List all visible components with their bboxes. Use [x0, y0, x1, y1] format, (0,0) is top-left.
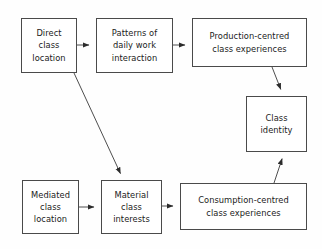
edge-direct-to-material [74, 73, 120, 174]
node-label: Consumption-centred class experiences [198, 194, 289, 218]
diagram-canvas: Direct class location Patterns of daily … [0, 0, 322, 249]
edge-production-to-class-identity [272, 67, 281, 89]
edge-consumption-to-class-identity [274, 159, 282, 183]
node-label: Mediated class location [31, 189, 70, 225]
node-label: Material class interests [113, 189, 150, 225]
node-label: Direct class location [32, 27, 65, 63]
node-label: Patterns of daily work interaction [112, 27, 157, 63]
node-consumption-centred-class-experiences[interactable]: Consumption-centred class experiences [180, 183, 307, 230]
node-direct-class-location[interactable]: Direct class location [21, 18, 77, 73]
node-production-centred-class-experiences[interactable]: Production-centred class experiences [192, 18, 307, 67]
node-label: Production-centred class experiences [210, 30, 290, 54]
node-patterns-of-daily-work-interaction[interactable]: Patterns of daily work interaction [96, 18, 173, 73]
node-class-identity[interactable]: Class identity [246, 96, 307, 152]
node-mediated-class-location[interactable]: Mediated class location [22, 180, 79, 234]
node-material-class-interests[interactable]: Material class interests [101, 180, 162, 234]
node-label: Class identity [260, 112, 292, 136]
